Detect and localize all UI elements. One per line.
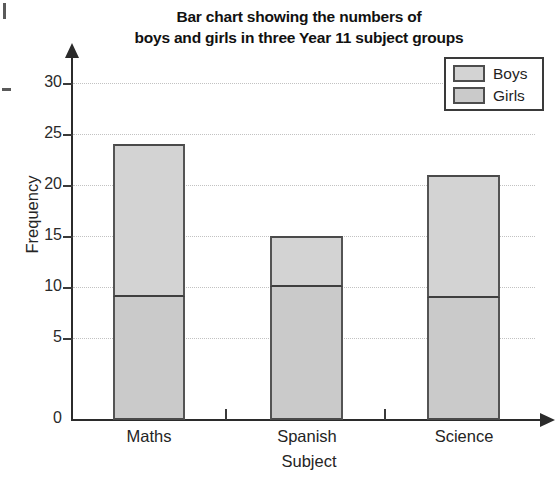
y-tick-20 <box>63 185 73 187</box>
y-tick-15 <box>63 236 73 238</box>
y-tick-10 <box>63 287 73 289</box>
x-category-label-science: Science <box>404 427 524 446</box>
chart-figure: Bar chart showing the numbers of boys an… <box>0 0 558 482</box>
bar-segment-science-boys[interactable] <box>427 175 500 298</box>
y-axis-arrow <box>65 43 79 58</box>
plot-area: 30 25 20 15 10 5 0 Maths Spanish Science <box>0 0 558 482</box>
y-tick-label-0: 0 <box>20 409 62 427</box>
y-tick-30 <box>63 83 73 85</box>
y-tick-label-5: 5 <box>20 328 62 346</box>
x-category-label-maths: Maths <box>89 427 209 446</box>
x-tick-2 <box>384 409 386 420</box>
legend-item-girls[interactable]: Girls <box>453 85 541 106</box>
legend-label-boys: Boys <box>493 63 527 84</box>
legend-label-girls: Girls <box>493 85 525 106</box>
bar-group-science[interactable] <box>427 175 500 420</box>
bar-group-spanish[interactable] <box>270 236 343 420</box>
x-axis-arrow <box>540 413 555 427</box>
bar-segment-spanish-boys[interactable] <box>270 236 343 287</box>
y-axis-line <box>71 55 73 421</box>
x-tick-1 <box>225 409 227 420</box>
chart-legend: Boys Girls <box>444 57 544 111</box>
bar-group-maths[interactable] <box>113 144 185 420</box>
y-tick-label-30: 30 <box>20 73 62 91</box>
x-axis-title: Subject <box>229 452 389 471</box>
y-tick-25 <box>63 134 73 136</box>
y-tick-label-25: 25 <box>20 124 62 142</box>
gridline-25 <box>73 134 535 136</box>
bar-segment-spanish-girls[interactable] <box>270 287 343 420</box>
bar-segment-maths-boys[interactable] <box>113 144 185 297</box>
y-axis-title: Frequency <box>23 145 42 285</box>
x-category-label-spanish: Spanish <box>247 427 367 446</box>
legend-swatch-boys <box>453 65 485 82</box>
legend-swatch-girls <box>453 87 485 104</box>
legend-item-boys[interactable]: Boys <box>453 63 541 84</box>
bar-segment-science-girls[interactable] <box>427 298 500 420</box>
y-tick-5 <box>63 338 73 340</box>
bar-segment-maths-girls[interactable] <box>113 297 185 420</box>
